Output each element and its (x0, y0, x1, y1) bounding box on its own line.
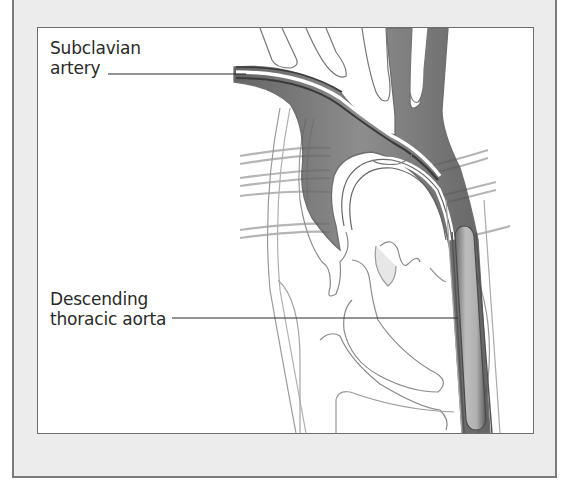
descending-label-line1: Descending (50, 289, 166, 309)
subclavian-artery-label: Subclavian artery (50, 38, 141, 78)
descending-thoracic-aorta-label: Descending thoracic aorta (50, 289, 166, 329)
subclavian-label-line2: artery (50, 58, 141, 78)
descending-label-line2: thoracic aorta (50, 309, 166, 329)
subclavian-label-line1: Subclavian (50, 38, 141, 58)
